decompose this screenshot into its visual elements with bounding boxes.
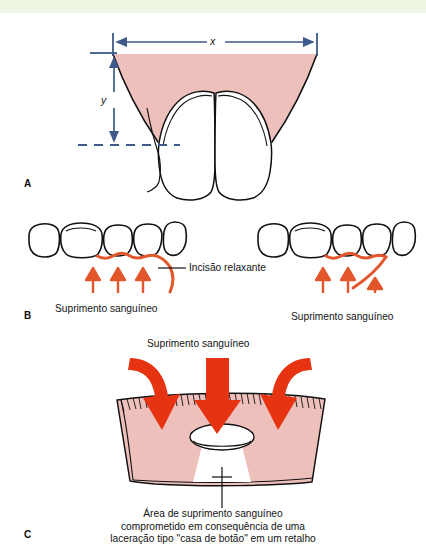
panel-c-flap-outline bbox=[117, 393, 325, 485]
panel-c-buttonhole bbox=[190, 424, 254, 450]
panel-b-left-blood-supply-label: Suprimento sanguíneo bbox=[55, 303, 158, 316]
panel-b-right-tooth-1 bbox=[258, 224, 288, 257]
panel-a-graphic bbox=[78, 33, 317, 200]
panel-a-tissue-fill bbox=[113, 54, 317, 141]
panel-b-left-blood-arrows bbox=[86, 268, 150, 293]
figure-root: x y A Incisão relaxante Suprimento sangu… bbox=[0, 0, 426, 546]
panel-c-arrow-right bbox=[260, 358, 312, 430]
panel-b-right-tooth-3 bbox=[333, 225, 362, 256]
panel-b-right-blood-arrows bbox=[316, 268, 382, 293]
panel-b-right-tooth-2 bbox=[290, 223, 332, 258]
panel-b-right-tooth-2-cusp bbox=[295, 228, 325, 231]
panel-c-arrow-left bbox=[128, 358, 180, 430]
panel-a-tooth-right-enamel bbox=[218, 95, 267, 146]
panel-letter-c: C bbox=[24, 529, 31, 540]
panel-c-flap-left-thickness bbox=[121, 400, 133, 480]
panel-b-left-tooth-2-cusp bbox=[66, 228, 96, 231]
panel-a-tooth-right bbox=[215, 91, 272, 200]
panel-c-graphic bbox=[117, 358, 325, 508]
panel-c-caption-line-1: Área de suprimento sanguíneo bbox=[0, 508, 426, 521]
panel-c-flap-bottom-thickness bbox=[133, 478, 313, 482]
panel-c-blood-supply-label: Suprimento sanguíneo bbox=[147, 338, 250, 351]
panel-a-flap-edge-left bbox=[113, 54, 158, 142]
panel-b-left-tooth-2 bbox=[61, 223, 103, 258]
panel-b-left-graphic bbox=[29, 222, 186, 293]
panel-c-buttonhole-inner bbox=[193, 441, 251, 446]
panel-b-left-incision-line bbox=[97, 253, 170, 267]
panel-a-tooth-left-enamel bbox=[163, 95, 212, 146]
panel-c-arrow-center bbox=[194, 358, 241, 434]
panel-a-tooth-left bbox=[158, 91, 215, 200]
panel-a-root-tail bbox=[147, 108, 160, 182]
panel-b-right-tooth-4 bbox=[363, 224, 391, 256]
top-green-band bbox=[0, 0, 426, 13]
panel-c-blood-arrows bbox=[128, 358, 312, 434]
panel-c-cut-edge-hatching bbox=[121, 393, 321, 411]
panel-b-left-tooth-4 bbox=[134, 224, 162, 256]
panel-b-right-releasing-incision bbox=[353, 257, 386, 288]
panel-c-caption-line-2: comprometido em consequência de uma bbox=[0, 521, 426, 534]
panel-letter-a: A bbox=[24, 178, 31, 189]
panel-c-flap-fill bbox=[117, 393, 325, 485]
panel-c-caption: Área de suprimento sanguíneo comprometid… bbox=[0, 508, 426, 546]
panel-b-left-tooth-5 bbox=[163, 222, 186, 255]
panel-a-flap-edge-right bbox=[272, 54, 317, 142]
panel-a-root-tail-lower bbox=[147, 182, 159, 192]
panel-b-left-tooth-3 bbox=[104, 225, 133, 256]
panel-b-right-tooth-5 bbox=[392, 222, 415, 255]
panel-a-dimension-x-label: x bbox=[210, 35, 215, 48]
panel-b-right-incision-line bbox=[326, 253, 386, 258]
panel-b-right-blood-supply-label: Suprimento sanguíneo bbox=[291, 311, 394, 324]
panel-b-right-graphic bbox=[258, 222, 415, 293]
panel-b-left-tooth-1 bbox=[29, 224, 59, 257]
panel-b-left-releasing-incision bbox=[170, 267, 173, 292]
panel-c-compromised-area bbox=[193, 438, 251, 482]
panel-b-incision-label: Incisão relaxante bbox=[189, 262, 266, 275]
panel-c-caption-line-3: laceração tipo "casa de botão" em um ret… bbox=[0, 533, 426, 546]
panel-a-dimension-y-label: y bbox=[101, 94, 106, 107]
panel-letter-b: B bbox=[24, 310, 31, 321]
